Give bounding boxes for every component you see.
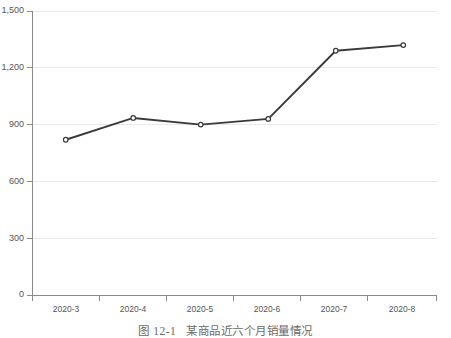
series-line-sales	[66, 45, 404, 140]
caption-number: 图 12-1	[138, 325, 176, 337]
data-point-2020-5	[198, 122, 203, 127]
y-axis: 1,500 1,200 900 600 300 0	[1, 5, 32, 299]
gridlines	[32, 11, 437, 238]
x-axis-label-5: 2020-8	[389, 304, 416, 314]
y-axis-label-3: 900	[9, 119, 24, 129]
data-series-sales	[63, 43, 405, 142]
data-point-2020-3	[63, 137, 68, 142]
data-point-2020-4	[131, 116, 136, 121]
y-axis-label-5: 1,500	[1, 5, 24, 15]
data-point-2020-7	[333, 48, 338, 53]
y-axis-label-4: 1,200	[1, 62, 24, 72]
figure-caption: 图 12-1某商品近六个月销量情况	[0, 322, 451, 338]
data-point-2020-8	[401, 43, 406, 48]
x-axis-label-0: 2020-3	[53, 304, 80, 314]
data-point-2020-6	[266, 117, 271, 122]
y-axis-label-1: 300	[9, 233, 24, 243]
x-axis: 2020-3 2020-4 2020-5 2020-6 2020-7 2020-…	[32, 295, 437, 314]
x-axis-label-2: 2020-5	[187, 304, 214, 314]
caption-text: 某商品近六个月销量情况	[186, 325, 313, 337]
x-axis-label-3: 2020-6	[254, 304, 281, 314]
series-markers	[63, 43, 405, 142]
x-axis-label-1: 2020-4	[120, 304, 147, 314]
x-axis-label-4: 2020-7	[321, 304, 348, 314]
y-axis-label-2: 600	[9, 176, 24, 186]
y-axis-label-0: 0	[19, 289, 24, 299]
